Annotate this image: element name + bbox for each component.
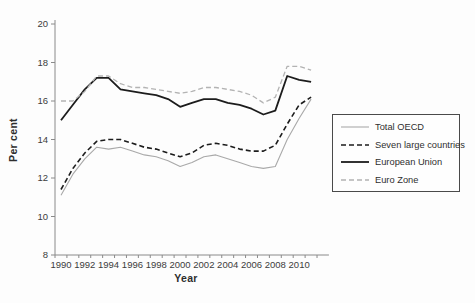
x-tick-label: 1990 (50, 259, 71, 270)
x-tick-label: 2006 (241, 259, 262, 270)
y-tick-label: 20 (37, 18, 48, 29)
x-tick-label: 2004 (217, 259, 238, 270)
legend-item-european-union: European Union (340, 157, 454, 167)
x-tick-label: 2002 (193, 259, 214, 270)
legend-label: Total OECD (375, 122, 424, 132)
legend-line-sample-icon (340, 123, 370, 131)
chart-legend: Total OECD Seven large countries Europea… (332, 114, 460, 192)
legend-item-seven-large-countries: Seven large countries (340, 140, 454, 150)
legend-label: European Union (375, 157, 442, 167)
legend-line-sample-icon (340, 176, 370, 184)
y-axis-title: Per cent (7, 118, 19, 162)
y-tick-label: 12 (37, 172, 48, 183)
legend-label: Euro Zone (375, 175, 418, 185)
series-line-european-union (61, 76, 311, 120)
legend-item-euro-zone: Euro Zone (340, 175, 454, 185)
y-tick-label: 18 (37, 57, 48, 68)
x-tick-label: 2008 (265, 259, 286, 270)
series-line-total-oecd (61, 99, 311, 195)
series-line-euro-zone (61, 66, 311, 103)
x-axis-title: Year (55, 272, 317, 284)
y-tick-label: 14 (37, 134, 48, 145)
x-tick-label: 2010 (289, 259, 310, 270)
x-tick-label: 1994 (98, 259, 119, 270)
y-tick-label: 8 (43, 249, 48, 260)
x-tick-label: 2000 (169, 259, 190, 270)
legend-line-sample-icon (340, 158, 370, 166)
x-tick-label: 1992 (74, 259, 95, 270)
legend-item-total-oecd: Total OECD (340, 122, 454, 132)
x-tick-label: 1998 (146, 259, 167, 270)
x-tick-label: 1996 (122, 259, 143, 270)
legend-line-sample-icon (340, 141, 370, 149)
y-tick-label: 10 (37, 211, 48, 222)
y-tick-label: 16 (37, 95, 48, 106)
legend-label: Seven large countries (375, 140, 465, 150)
line-chart-figure: 8101214161820199019921994199619982000200… (0, 0, 475, 303)
